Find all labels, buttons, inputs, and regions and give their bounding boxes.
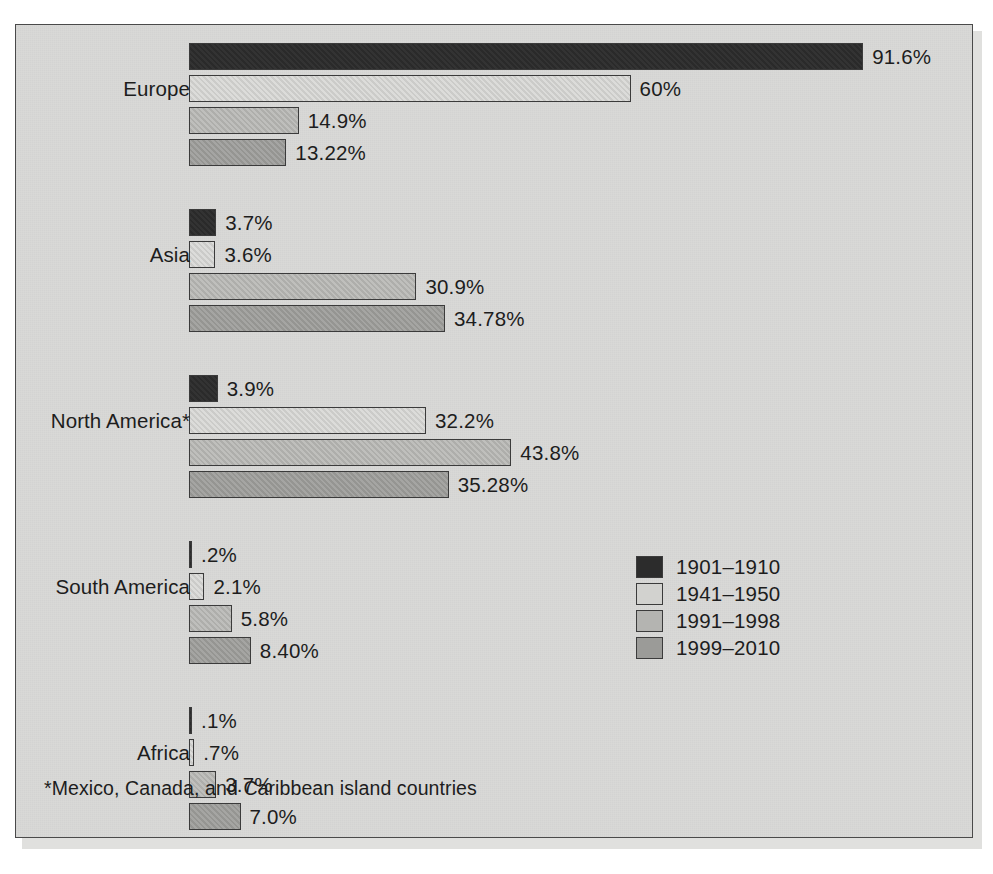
legend-item-1901-1910: 1901–1910: [636, 553, 780, 580]
bar-value-label-south-america-1901-1910: .2%: [201, 542, 237, 566]
bar-south-america-1941-1950: [189, 573, 204, 600]
bar-north-america-1941-1950: [189, 407, 426, 434]
bar-value-label-africa-1901-1910: .1%: [201, 708, 237, 732]
bar-africa-1901-1910: [189, 707, 192, 734]
bar-value-label-north-america-1901-1910: 3.9%: [227, 376, 275, 400]
category-label-europe: Europe: [0, 77, 190, 101]
bar-south-america-1999-2010: [189, 637, 251, 664]
legend-swatch-1901-1910: [636, 556, 663, 578]
legend-swatch-1991-1998: [636, 610, 663, 632]
bar-value-label-asia-1991-1998: 30.9%: [425, 274, 484, 298]
bar-north-america-1991-1998: [189, 439, 511, 466]
bar-europe-1999-2010: [189, 139, 286, 166]
bar-value-label-north-america-1941-1950: 32.2%: [435, 408, 494, 432]
bar-asia-1991-1998: [189, 273, 416, 300]
chart-footnote: *Mexico, Canada, and Caribbean island co…: [44, 777, 477, 800]
bar-value-label-europe-1901-1910: 91.6%: [872, 44, 931, 68]
bar-europe-1991-1998: [189, 107, 299, 134]
bar-value-label-asia-1901-1910: 3.7%: [225, 210, 273, 234]
category-label-asia: Asia: [0, 243, 190, 267]
bar-africa-1999-2010: [189, 803, 241, 830]
bar-value-label-africa-1941-1950: .7%: [203, 740, 239, 764]
bar-value-label-north-america-1999-2010: 35.28%: [458, 472, 529, 496]
bar-chart-plot-area: 91.6%60%14.9%13.22%Europe3.7%3.6%30.9%34…: [16, 25, 972, 837]
bar-asia-1901-1910: [189, 209, 216, 236]
bar-europe-1901-1910: [189, 43, 863, 70]
legend-item-1941-1950: 1941–1950: [636, 580, 780, 607]
bar-value-label-south-america-1991-1998: 5.8%: [241, 606, 289, 630]
chart-panel: 91.6%60%14.9%13.22%Europe3.7%3.6%30.9%34…: [15, 24, 973, 838]
bar-value-label-europe-1991-1998: 14.9%: [308, 108, 367, 132]
bar-europe-1941-1950: [189, 75, 631, 102]
bar-value-label-north-america-1991-1998: 43.8%: [520, 440, 579, 464]
bar-value-label-africa-1999-2010: 7.0%: [250, 804, 298, 828]
bar-north-america-1901-1910: [189, 375, 218, 402]
bar-value-label-south-america-1941-1950: 2.1%: [213, 574, 261, 598]
category-label-north-america: North America*: [0, 409, 190, 433]
legend-swatch-1999-2010: [636, 637, 663, 659]
bar-south-america-1901-1910: [189, 541, 192, 568]
bar-south-america-1991-1998: [189, 605, 232, 632]
chart-legend: 1901–19101941–19501991–19981999–2010: [636, 553, 780, 661]
legend-item-1999-2010: 1999–2010: [636, 634, 780, 661]
category-label-south-america: South America: [0, 575, 190, 599]
legend-swatch-1941-1950: [636, 583, 663, 605]
legend-label-1999-2010: 1999–2010: [676, 636, 780, 660]
bar-value-label-europe-1941-1950: 60%: [640, 76, 682, 100]
bar-value-label-asia-1999-2010: 34.78%: [454, 306, 525, 330]
bar-north-america-1999-2010: [189, 471, 449, 498]
category-label-africa: Africa: [0, 741, 190, 765]
bar-value-label-asia-1941-1950: 3.6%: [224, 242, 272, 266]
bar-value-label-europe-1999-2010: 13.22%: [295, 140, 366, 164]
legend-label-1991-1998: 1991–1998: [676, 609, 780, 633]
bar-asia-1999-2010: [189, 305, 445, 332]
legend-label-1941-1950: 1941–1950: [676, 582, 780, 606]
bar-asia-1941-1950: [189, 241, 215, 268]
legend-label-1901-1910: 1901–1910: [676, 555, 780, 579]
bar-value-label-south-america-1999-2010: 8.40%: [260, 638, 319, 662]
legend-item-1991-1998: 1991–1998: [636, 607, 780, 634]
